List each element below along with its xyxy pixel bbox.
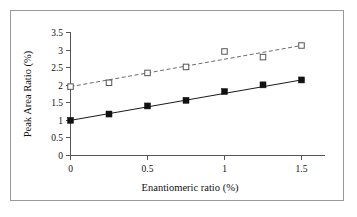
chart-plot-area: 3.5 3 2.5 2 1.5 1 0.5 0 Peak Area Ratio … bbox=[0, 0, 357, 217]
filled-square-series-point-4 bbox=[222, 89, 228, 95]
x-tick-label-0: 0 bbox=[68, 164, 73, 174]
y-tick-label-1: 1 bbox=[58, 116, 63, 126]
y-tick-label-3.5: 3.5 bbox=[51, 28, 63, 38]
figure-container: 3.5 3 2.5 2 1.5 1 0.5 0 Peak Area Ratio … bbox=[0, 0, 357, 217]
open-square-series-point-1 bbox=[106, 80, 112, 86]
x-axis-group: 0 0.5 1 1.5 Enantiomeric ratio (%) bbox=[68, 156, 325, 195]
filled-square-series-point-6 bbox=[299, 77, 305, 83]
open-square-series-point-6 bbox=[299, 43, 305, 49]
open-square-series-point-2 bbox=[145, 70, 151, 76]
y-axis-title: Peak Area Ratio (%) bbox=[22, 50, 34, 137]
x-axis-title: Enantiomeric ratio (%) bbox=[142, 182, 239, 194]
open-square-series-point-4 bbox=[222, 49, 228, 55]
filled-square-series-point-2 bbox=[145, 103, 151, 109]
filled-square-series-point-0 bbox=[68, 117, 74, 123]
filled-square-series-markers bbox=[68, 77, 305, 123]
y-tick-label-0: 0 bbox=[58, 151, 63, 161]
chart-svg: 3.5 3 2.5 2 1.5 1 0.5 0 Peak Area Ratio … bbox=[0, 0, 357, 217]
y-tick-label-2.5: 2.5 bbox=[51, 63, 63, 73]
y-tick-label-0.5: 0.5 bbox=[51, 133, 63, 143]
open-square-series-markers bbox=[68, 43, 305, 90]
open-square-series-point-3 bbox=[183, 64, 189, 70]
data-series-layer bbox=[68, 43, 305, 124]
x-tick-label-1.5: 1.5 bbox=[296, 164, 308, 174]
x-tick-label-1: 1 bbox=[222, 164, 227, 174]
open-square-series-point-5 bbox=[260, 54, 266, 60]
open-square-series-point-0 bbox=[68, 84, 74, 90]
y-tick-label-1.5: 1.5 bbox=[51, 98, 63, 108]
filled-square-series-point-5 bbox=[260, 82, 266, 88]
filled-square-series-point-3 bbox=[183, 97, 189, 103]
x-tick-label-0.5: 0.5 bbox=[142, 164, 154, 174]
y-axis-group: 3.5 3 2.5 2 1.5 1 0.5 0 Peak Area Ratio … bbox=[22, 28, 71, 161]
y-tick-label-2: 2 bbox=[58, 81, 63, 91]
filled-square-series-point-1 bbox=[106, 111, 112, 117]
y-tick-label-3: 3 bbox=[58, 46, 63, 56]
